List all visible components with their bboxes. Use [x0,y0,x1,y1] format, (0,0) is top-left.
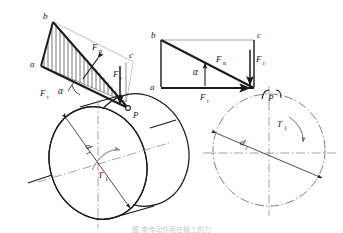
svg-text:t: t [47,94,49,100]
svg-text:r: r [263,60,265,66]
right-edge-bP [161,40,254,88]
right-label-force-radial: F r [255,54,265,66]
left-edge-ab [41,22,53,66]
left-point-P-marker [126,106,131,111]
right-label-a: a [150,82,155,92]
svg-text:t: t [207,98,209,104]
right-label-b: b [151,30,156,40]
svg-text:T: T [277,119,283,129]
diagram-canvas: b a c P F n F t F r α d 1 T 1 [0,0,343,233]
svg-text:r: r [120,75,122,81]
right-label-alpha: α [193,67,199,77]
left-isometric-view: b a c P F n F t F r α d 1 T 1 [28,0,203,232]
svg-text:1: 1 [284,125,287,131]
left-label-force-tangential: F t [39,88,49,100]
right-label-c: c [257,30,261,40]
force-diagram-figure: b a c P F n F t F r α d 1 T 1 [0,0,343,233]
right-torque-arrow [289,117,303,142]
svg-text:n: n [223,60,226,66]
right-label-diameter: d 1 [238,137,251,151]
right-label-torque: T 1 [277,119,287,131]
right-label-force-normal: F n [215,54,226,66]
svg-text:F: F [215,54,222,64]
right-label-force-tangential: F t [199,92,209,104]
svg-text:F: F [112,69,119,79]
svg-text:1: 1 [244,145,249,152]
svg-text:n: n [99,48,102,54]
left-label-a: a [30,59,35,69]
left-angle-arc [72,85,80,95]
right-projected-view: P b a c F n F t F r α d 1 T [150,30,337,216]
svg-text:F: F [199,92,206,102]
svg-text:1: 1 [105,176,108,182]
left-label-P: P [132,110,139,120]
figure-caption: 图 带传动作用在轴上的力 [0,226,343,233]
right-label-P: P [267,93,274,103]
svg-text:F: F [39,88,46,98]
svg-text:F: F [91,42,98,52]
left-label-b: b [43,11,48,21]
right-centerlines [203,86,337,216]
left-label-c: c [129,50,133,60]
svg-text:F: F [255,54,262,64]
left-angle-tick [68,82,74,91]
left-label-alpha: α [58,86,64,96]
